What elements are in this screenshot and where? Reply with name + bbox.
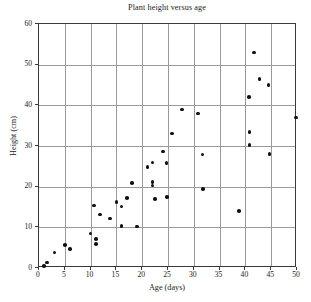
data-point [130, 181, 134, 185]
plot-area [38, 23, 296, 267]
x-axis-tick-label: 45 [258, 270, 282, 279]
data-point [120, 205, 124, 209]
x-axis-tick-label: 40 [232, 270, 256, 279]
data-point [94, 237, 98, 241]
data-point [53, 251, 57, 255]
data-point [45, 261, 49, 265]
x-axis-tick-label: 25 [155, 270, 179, 279]
data-point [153, 197, 157, 201]
data-point [94, 242, 98, 246]
x-axis-tick-label: 30 [181, 270, 205, 279]
data-point [196, 112, 200, 116]
data-point [92, 204, 96, 208]
data-point [151, 161, 155, 165]
x-axis-tick-label: 10 [78, 270, 102, 279]
y-axis-tick-label: 60 [6, 19, 32, 28]
y-axis-tick [35, 145, 38, 146]
y-axis-label: Height (cm) [9, 91, 19, 181]
y-axis-tick [35, 104, 38, 105]
data-point [146, 165, 150, 169]
data-point [258, 77, 262, 81]
data-point [267, 83, 271, 87]
chart-title: Plant height versus age [38, 3, 296, 13]
x-axis-tick-label: 5 [52, 270, 76, 279]
data-point [115, 200, 119, 204]
data-point [201, 187, 205, 191]
data-point [120, 224, 124, 228]
data-point [201, 153, 205, 157]
data-point [268, 152, 272, 156]
y-axis-tick [35, 226, 38, 227]
y-axis-tick [35, 23, 38, 24]
y-axis-tick-label: 0 [6, 263, 32, 272]
scatter-plot-figure: Plant height versus age 0510152025303540… [0, 0, 311, 302]
y-axis-tick [35, 186, 38, 187]
data-point [247, 95, 251, 99]
data-point [294, 116, 298, 120]
data-point [151, 184, 155, 188]
y-axis-tick-label: 20 [6, 181, 32, 190]
data-point [165, 161, 169, 165]
data-point [98, 213, 102, 217]
data-point [125, 196, 129, 200]
data-point [89, 232, 93, 236]
data-point [108, 217, 112, 221]
y-axis-tick [35, 267, 38, 268]
data-point [135, 225, 139, 229]
y-axis-tick [35, 64, 38, 65]
x-axis-tick-label: 35 [207, 270, 231, 279]
data-points-layer [39, 24, 295, 266]
x-axis-label: Age (days) [38, 283, 296, 293]
data-point [161, 150, 165, 154]
data-point [68, 247, 72, 251]
data-point [63, 243, 67, 247]
y-axis-tick-label: 10 [6, 222, 32, 231]
data-point [180, 108, 184, 112]
data-point [170, 132, 174, 136]
y-axis-tick-label: 50 [6, 59, 32, 68]
x-axis-tick-label: 15 [103, 270, 127, 279]
data-point [248, 143, 252, 147]
x-axis-tick-label: 50 [284, 270, 308, 279]
x-axis-tick-label: 20 [129, 270, 153, 279]
data-point [165, 195, 169, 199]
data-point [248, 130, 252, 134]
data-point [252, 51, 256, 55]
data-point [42, 264, 46, 268]
data-point [237, 209, 241, 213]
